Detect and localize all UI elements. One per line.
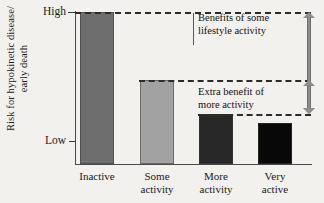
annotation-benefits-of-some-lifestyle-activity: Benefits of some lifestyle activity — [198, 12, 302, 37]
bar-inactive — [80, 12, 114, 164]
y-axis-title: Risk for hypokinetic disease/ early deat… — [5, 0, 30, 150]
arrow-head-down-icon — [303, 108, 315, 114]
reference-line-some-activity — [139, 80, 311, 82]
x-axis-line — [75, 164, 312, 165]
bar-more-activity — [199, 114, 233, 164]
y-axis-tick-low — [69, 141, 76, 142]
y-axis-tick-label-high: High — [8, 5, 66, 17]
arrow-shaft — [307, 85, 311, 108]
y-axis-title-container: Risk for hypokinetic disease/ early deat… — [0, 0, 34, 175]
y-axis-tick-label-low: Low — [8, 134, 66, 146]
annotation-leader-line — [193, 13, 194, 45]
bar-some-activity — [140, 80, 174, 164]
x-axis-label-very-active: Very active — [235, 170, 315, 196]
chart-figure: Risk for hypokinetic disease/ early deat… — [0, 0, 324, 203]
bar-very-active — [258, 123, 292, 164]
reference-line-more-activity — [198, 114, 311, 116]
y-axis-tick-high — [68, 12, 75, 13]
arrow-double-headed-extra-benefit — [303, 80, 315, 113]
annotation-extra-benefit-of-more-activity: Extra benefit of more activity — [198, 86, 302, 111]
